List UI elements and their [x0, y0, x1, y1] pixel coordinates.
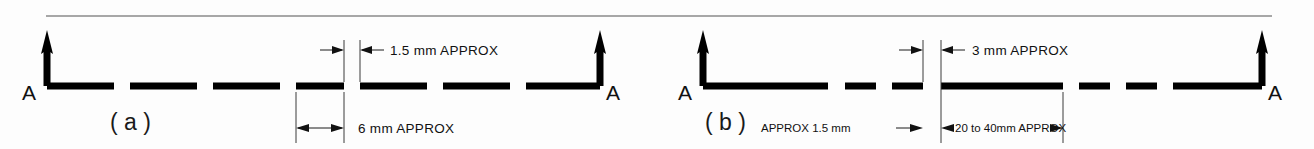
dash-dim-arrow-right-a	[331, 124, 344, 132]
engineering-drawing-figure: 1.5 mm APPROX 6 mm APPROX A A ( a )	[0, 0, 1314, 149]
long-dash-dim-arrow-left-b	[941, 124, 954, 132]
gap-dim-arrow-left-a	[332, 46, 344, 54]
section-letter-right-a: A	[606, 81, 620, 104]
section-letter-left-a: A	[22, 81, 36, 104]
gap-dim-arrow-left-b	[911, 46, 923, 54]
section-letter-left-b: A	[678, 81, 692, 104]
drawing-canvas: 1.5 mm APPROX 6 mm APPROX A A ( a )	[0, 0, 1314, 149]
long-dash-dimension-label-b: 20 to 40mm APPROX	[955, 122, 1067, 134]
dash-dimension-label-a: 6 mm APPROX	[358, 121, 454, 136]
short-dash-dimension-label-b: APPROX 1.5 mm	[761, 122, 850, 134]
gap-dim-arrow-right-a	[360, 46, 372, 54]
gap-dimension-label-a: 1.5 mm APPROX	[390, 43, 498, 58]
gap-dimension-label-b: 3 mm APPROX	[972, 43, 1068, 58]
diagram-a: 1.5 mm APPROX 6 mm APPROX A A ( a )	[22, 30, 620, 143]
figure-label-b: ( b )	[705, 109, 746, 135]
short-dash-dim-arrow-b	[910, 124, 923, 132]
dash-dim-arrow-left-a	[296, 124, 309, 132]
figure-label-a: ( a )	[110, 109, 151, 135]
diagram-b: 3 mm APPROX APPROX 1.5 mm 20 to 40mm APP…	[678, 30, 1282, 143]
gap-dim-arrow-right-b	[941, 46, 953, 54]
section-letter-right-b: A	[1268, 81, 1282, 104]
